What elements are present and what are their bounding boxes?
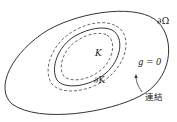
connected-label: 連結 <box>145 93 163 102</box>
arrowhead-icon <box>134 74 137 78</box>
outer-boundary-label: ∂Ω <box>157 17 169 26</box>
condition-label: g = 0 <box>138 58 161 67</box>
set-boundary-label: ∂K <box>94 76 105 85</box>
outer-dashed-curve <box>48 23 126 91</box>
set-k-label: K <box>95 49 102 58</box>
connection-arrow <box>136 76 142 92</box>
k-boundary-curve <box>54 28 119 86</box>
